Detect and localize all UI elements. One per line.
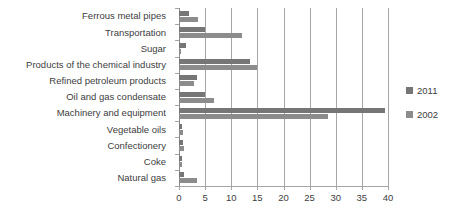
bar-2011: [179, 43, 186, 48]
x-tick: [231, 186, 232, 190]
category-label: Products of the chemical industry: [0, 57, 172, 73]
x-tick-label: 40: [383, 191, 394, 204]
bar-2011: [179, 124, 182, 129]
bar-2002: [179, 146, 184, 151]
x-tick-label: 15: [252, 191, 263, 204]
bar-group: [179, 105, 388, 121]
bar-group: [179, 121, 388, 137]
x-axis-ticks: [179, 186, 388, 190]
bar-2002: [179, 65, 257, 70]
bar-group: [179, 40, 388, 56]
bar-2002: [179, 114, 328, 119]
bar-groups: [179, 8, 388, 186]
bar-2011: [179, 27, 205, 32]
bar-2002: [179, 17, 198, 22]
x-tick: [179, 186, 180, 190]
bar-2002: [179, 81, 194, 86]
bar-2002: [179, 98, 214, 103]
bar-2011: [179, 172, 184, 177]
legend-swatch-icon: [406, 87, 413, 94]
category-axis-labels: Ferrous metal pipesTransportationSugarPr…: [0, 8, 172, 186]
plot-area: [179, 8, 388, 186]
x-tick-label: 0: [176, 191, 181, 204]
bar-2011: [179, 11, 189, 16]
bar-chart: Ferrous metal pipesTransportationSugarPr…: [0, 0, 465, 217]
category-label: Oil and gas condensate: [0, 89, 172, 105]
legend-label: 2011: [417, 86, 437, 96]
bar-group: [179, 57, 388, 73]
x-tick-label: 25: [304, 191, 315, 204]
legend-label: 2002: [417, 110, 438, 120]
category-label: Sugar: [0, 40, 172, 56]
bar-group: [179, 89, 388, 105]
bar-2011: [179, 92, 205, 97]
category-label: Machinery and equipment: [0, 105, 172, 121]
bar-group: [179, 8, 388, 24]
x-tick-label: 30: [330, 191, 341, 204]
x-axis-tick-labels: 0510152025303540: [179, 191, 388, 205]
bar-2002: [179, 178, 197, 183]
x-tick: [257, 186, 258, 190]
x-tick: [336, 186, 337, 190]
x-tick: [284, 186, 285, 190]
bar-group: [179, 138, 388, 154]
category-label: Natural gas: [0, 170, 172, 186]
bar-2011: [179, 156, 182, 161]
gridline: [388, 8, 389, 186]
chart-legend: 20112002: [406, 86, 462, 119]
x-tick: [310, 186, 311, 190]
bar-2011: [179, 140, 183, 145]
bar-group: [179, 154, 388, 170]
bar-2011: [179, 75, 197, 80]
x-tick: [362, 186, 363, 190]
bar-2011: [179, 59, 250, 64]
legend-item[interactable]: 2002: [406, 110, 462, 120]
bar-2002: [179, 130, 183, 135]
bar-group: [179, 24, 388, 40]
x-tick-label: 5: [202, 191, 207, 204]
bar-2002: [179, 49, 181, 54]
x-tick-label: 10: [226, 191, 237, 204]
legend-item[interactable]: 2011: [406, 86, 462, 96]
category-label: Transportation: [0, 24, 172, 40]
category-label: Refined petroleum products: [0, 73, 172, 89]
category-label: Ferrous metal pipes: [0, 8, 172, 24]
legend-swatch-icon: [406, 111, 413, 118]
category-label: Vegetable oils: [0, 121, 172, 137]
x-tick: [388, 186, 389, 190]
bar-2002: [179, 33, 242, 38]
category-label: Confectionery: [0, 138, 172, 154]
bar-2002: [179, 162, 182, 167]
category-label: Coke: [0, 154, 172, 170]
bar-2011: [179, 108, 385, 113]
bar-group: [179, 73, 388, 89]
bar-group: [179, 170, 388, 186]
x-tick-label: 20: [278, 191, 289, 204]
x-tick: [205, 186, 206, 190]
x-tick-label: 35: [357, 191, 368, 204]
